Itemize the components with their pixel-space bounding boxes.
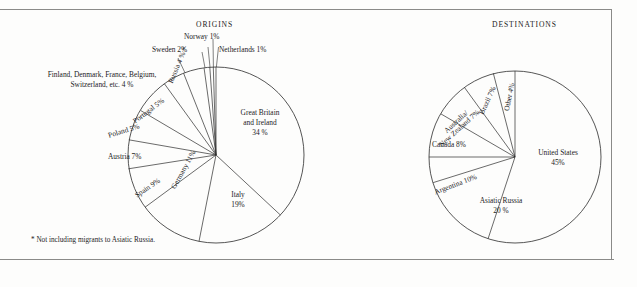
origins-label-sweden: Sweden 2%: [152, 45, 187, 55]
origins-spoke-russia: [204, 68, 216, 155]
destinations-label-asiatic-russia-name: Asiatic Russia: [468, 196, 534, 206]
origins-label-austria: Austria 7%: [108, 152, 141, 162]
origins-label-italy: Italy 19%: [216, 190, 260, 210]
origins-label-great-britain-pct: 34 %: [226, 128, 294, 138]
origins-spoke-italy: [199, 155, 216, 241]
destinations-label-asiatic-russia-pct: 20 %: [468, 206, 534, 216]
origins-label-great-britain-line1: Great Britain: [226, 108, 294, 118]
origins-spoke-norway: [213, 67, 216, 155]
figure-footnote: * Not including migrants to Asiatic Russ…: [31, 236, 155, 244]
destinations-label-united-states-pct: 45%: [525, 158, 591, 168]
origins-label-great-britain-line2: and Ireland: [226, 118, 294, 128]
origins-spoke-spain: [128, 155, 216, 169]
origins-label-norway: Norway 1%: [184, 32, 220, 42]
origins-leader-sweden: [208, 47, 210, 67]
destinations-label-united-states-name: United States: [525, 148, 591, 158]
origins-label-nordics: Finland, Denmark, France, Belgium, Switz…: [22, 70, 182, 90]
origins-label-italy-pct: 19%: [216, 200, 260, 210]
origins-label-netherlands: Netherlands 1%: [219, 45, 266, 55]
origins-leader-russia: [202, 52, 205, 68]
origins-label-great-britain: Great Britain and Ireland 34 %: [226, 108, 294, 138]
figure-page: ORIGINS DESTINATIONS: [0, 0, 637, 287]
origins-label-italy-name: Italy: [216, 190, 260, 200]
origins-spoke-portugal: [164, 84, 216, 155]
origins-label-nordics-line2: Switzerland, etc. 4 %: [22, 80, 182, 90]
destinations-label-asiatic-russia: Asiatic Russia 20 %: [468, 196, 534, 216]
destinations-label-united-states: United States 45%: [525, 148, 591, 168]
origins-label-nordics-line1: Finland, Denmark, France, Belgium,: [22, 70, 182, 80]
